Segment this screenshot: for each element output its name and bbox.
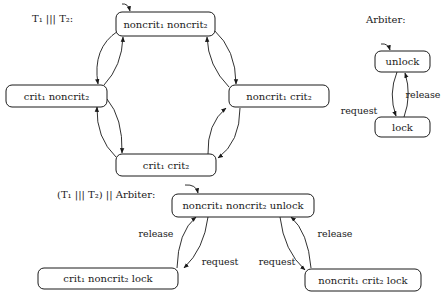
edge-label-release-left: release [139,228,174,239]
state-crit1-noncrit2-lock: crit₁ noncrit₂ lock [38,268,178,289]
edge-label-release: release [406,89,441,100]
composition-initial-arrow [185,185,198,193]
svg-text:noncrit₁ crit₂: noncrit₁ crit₂ [246,91,311,102]
state-crit1-noncrit2: crit₁ noncrit₂ [6,85,107,107]
arbiter-title: Arbiter: [365,14,406,25]
svg-text:noncrit₁ noncrit₂ unlock: noncrit₁ noncrit₂ unlock [182,200,304,211]
svg-text:crit₁ noncrit₂: crit₁ noncrit₂ [24,91,89,102]
edge-nn-nc [214,30,236,84]
edge-cnl-nnu [177,217,196,268]
edge-nn-cn [97,31,118,84]
edge-label-request-left: request [202,256,239,267]
state-noncrit1-crit2-lock: noncrit₁ crit₂ lock [305,269,421,291]
svg-text:crit₁ noncrit₂ lock: crit₁ noncrit₂ lock [63,273,153,284]
transition-system-diagram: T₁ ||| T₂: noncrit₁ noncrit₂ crit₁ noncr… [0,0,441,301]
state-crit1-crit2: crit₁ crit₂ [116,154,216,176]
svg-text:noncrit₁ crit₂ lock: noncrit₁ crit₂ lock [318,275,408,286]
edge-nc-cc [218,108,240,158]
state-noncrit1-crit2: noncrit₁ crit₂ [229,85,329,107]
svg-text:crit₁ crit₂: crit₁ crit₂ [143,160,189,171]
interleaving-title: T₁ ||| T₂: [32,13,73,25]
edge-label-release-right: release [318,228,353,239]
svg-text:lock: lock [392,122,414,133]
edge-unlock-lock [392,72,397,116]
edge-cn-cc [107,99,122,153]
state-lock: lock [375,117,430,137]
edge-label-request-right: request [259,256,296,267]
edge-cn-nn [104,37,123,85]
edge-cc-cn [97,107,116,157]
composition-title: (T₁ ||| T₂) || Arbiter: [57,189,155,201]
state-unlock: unlock [375,51,430,72]
initial-arrow [122,4,130,11]
arbiter-initial-arrow [381,44,390,50]
edge-cc-nc [208,108,226,154]
state-noncrit1-noncrit2-unlock: noncrit₁ noncrit₂ unlock [172,194,314,217]
svg-text:unlock: unlock [386,56,421,67]
state-noncrit1-noncrit2: noncrit₁ noncrit₂ [116,12,215,36]
edge-label-request: request [341,105,378,116]
svg-text:noncrit₁ noncrit₂: noncrit₁ noncrit₂ [123,19,207,30]
